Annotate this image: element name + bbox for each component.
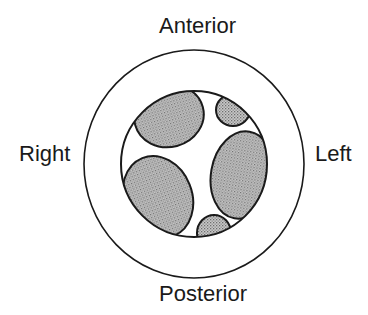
label-posterior: Posterior [159, 283, 247, 305]
shaded-regions [111, 77, 280, 251]
label-anterior: Anterior [159, 15, 236, 37]
posterior-right-region [111, 145, 206, 248]
left-lateral-region [204, 126, 280, 223]
label-left-side: Left [315, 143, 352, 165]
label-right-side: Right [19, 143, 70, 165]
posterior-left-region [197, 215, 231, 251]
outer-ring [84, 50, 304, 278]
anterior-left-region [216, 94, 250, 126]
